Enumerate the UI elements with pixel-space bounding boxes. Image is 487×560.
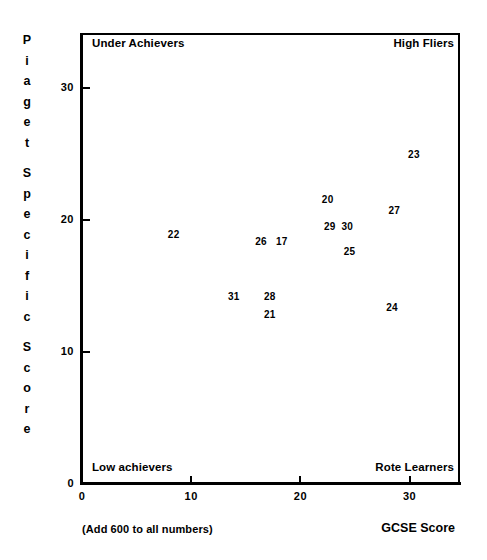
y-axis-title-letter: t bbox=[18, 133, 36, 154]
data-point-22: 22 bbox=[168, 230, 180, 240]
y-axis-title: PiagetSpecificScore bbox=[18, 30, 36, 440]
y-axis-title-gap bbox=[18, 153, 36, 163]
y-axis-title-letter: e bbox=[18, 112, 36, 133]
y-axis-title-letter: r bbox=[18, 399, 36, 420]
x-tick-20 bbox=[299, 476, 301, 483]
y-axis-title-gap bbox=[18, 327, 36, 337]
y-axis-title-letter: i bbox=[18, 286, 36, 307]
y-axis-title-letter: c bbox=[18, 307, 36, 328]
y-axis-title-letter: e bbox=[18, 419, 36, 440]
y-tick-label-20: 20 bbox=[46, 213, 74, 225]
data-point-24: 24 bbox=[386, 303, 398, 313]
y-tick-label-10: 10 bbox=[46, 345, 74, 357]
x-axis-line bbox=[80, 482, 461, 485]
y-axis-title-letter: c bbox=[18, 225, 36, 246]
y-axis-title-letter: S bbox=[18, 337, 36, 358]
x-axis-title: GCSE Score bbox=[381, 521, 455, 535]
y-axis-line bbox=[80, 33, 83, 485]
data-point-20: 20 bbox=[322, 195, 334, 205]
y-axis-title-letter: e bbox=[18, 204, 36, 225]
y-axis-title-letter: i bbox=[18, 51, 36, 72]
x-tick-label-10: 10 bbox=[176, 490, 206, 502]
data-point-27: 27 bbox=[388, 206, 400, 216]
x-tick-0 bbox=[81, 476, 83, 483]
x-tick-label-30: 30 bbox=[395, 490, 425, 502]
y-axis-title-letter: i bbox=[18, 245, 36, 266]
quadrant-label-low-achievers: Low achievers bbox=[92, 461, 173, 473]
y-tick-20 bbox=[83, 219, 90, 221]
quadrant-label-rote-learners: Rote Learners bbox=[375, 461, 454, 473]
y-axis-title-letter: g bbox=[18, 92, 36, 113]
data-point-17: 17 bbox=[276, 237, 288, 247]
y-axis-title-letter: p bbox=[18, 184, 36, 205]
y-tick-label-30: 30 bbox=[46, 81, 74, 93]
y-axis-title-letter: S bbox=[18, 163, 36, 184]
y-axis-title-letter: P bbox=[18, 30, 36, 51]
y-axis-title-letter: f bbox=[18, 266, 36, 287]
y-tick-30 bbox=[83, 87, 90, 89]
x-tick-30 bbox=[409, 476, 411, 483]
data-point-28: 28 bbox=[264, 292, 276, 302]
data-point-30: 30 bbox=[341, 222, 353, 232]
data-point-21: 21 bbox=[264, 310, 276, 320]
x-tick-label-0: 0 bbox=[67, 490, 97, 502]
data-point-29: 29 bbox=[324, 222, 336, 232]
x-tick-label-20: 20 bbox=[285, 490, 315, 502]
quadrant-label-under-achievers: Under Achievers bbox=[92, 37, 184, 49]
data-point-31: 31 bbox=[228, 292, 240, 302]
quadrant-label-high-fliers: High Fliers bbox=[393, 37, 454, 49]
chart-footnote: (Add 600 to all numbers) bbox=[82, 523, 213, 535]
x-tick-10 bbox=[190, 476, 192, 483]
data-point-23: 23 bbox=[408, 150, 420, 160]
plot-area bbox=[81, 33, 460, 484]
y-axis-title-letter: o bbox=[18, 378, 36, 399]
y-axis-title-letter: c bbox=[18, 358, 36, 379]
y-tick-10 bbox=[83, 351, 90, 353]
y-tick-label-0: 0 bbox=[46, 477, 74, 489]
data-point-26: 26 bbox=[255, 237, 267, 247]
y-axis-title-letter: a bbox=[18, 71, 36, 92]
data-point-25: 25 bbox=[344, 247, 356, 257]
